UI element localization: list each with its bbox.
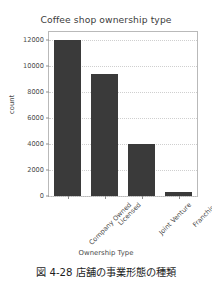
x-tick-mark <box>105 196 106 199</box>
y-tick-label: 12000 <box>23 36 44 44</box>
y-tick-label: 0 <box>40 192 44 200</box>
chart-title: Coffee shop ownership type <box>0 14 212 25</box>
y-tick-label: 6000 <box>27 114 44 122</box>
x-axis-label: Ownership Type <box>0 249 212 257</box>
figure-container: Coffee shop ownership type count 0200040… <box>0 0 212 286</box>
bar-series <box>49 32 197 196</box>
figure-caption: 図 4-28 店舗の事業形態の種類 <box>0 264 212 279</box>
x-tick-mark <box>68 196 69 199</box>
y-tick-label: 4000 <box>27 140 44 148</box>
x-tick-label: Joint Venture <box>157 201 193 237</box>
y-tick-label: 2000 <box>27 166 44 174</box>
x-tick-mark <box>179 196 180 199</box>
bar <box>91 74 118 196</box>
y-axis-label: count <box>8 95 16 114</box>
plot-area: 020004000600080001000012000 Company Owne… <box>48 31 198 197</box>
bar <box>54 40 81 196</box>
y-tick-label: 8000 <box>27 88 44 96</box>
x-tick-label: Franchise <box>191 201 212 229</box>
y-tick-label: 10000 <box>23 62 44 70</box>
x-tick-mark <box>142 196 143 199</box>
x-tick-label: Company Owned <box>87 201 133 247</box>
gridline <box>49 196 197 197</box>
bar <box>128 144 155 196</box>
